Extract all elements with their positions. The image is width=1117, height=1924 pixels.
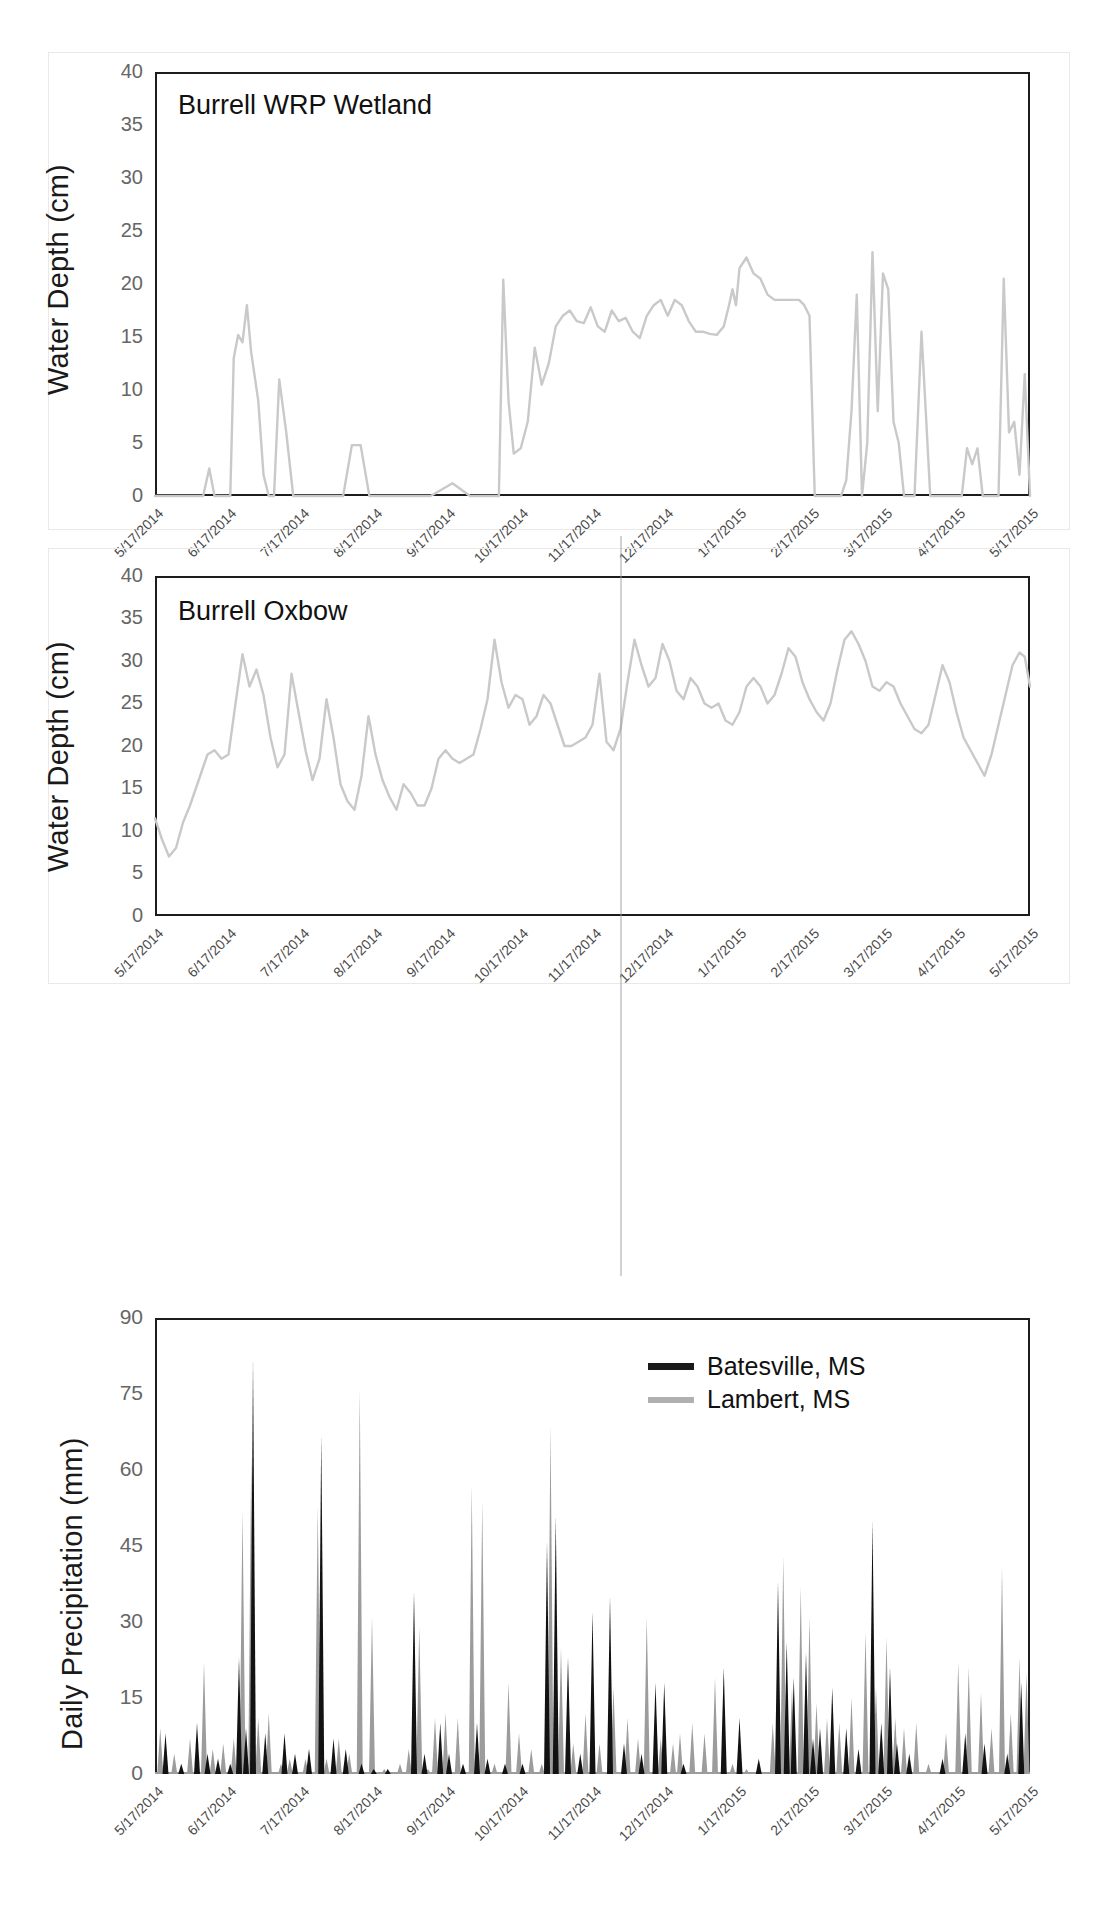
- precip-spike: [565, 1657, 571, 1774]
- precip-series-batesville: [163, 1359, 1025, 1774]
- precip-spike: [432, 1718, 438, 1774]
- precip-spike: [1024, 1673, 1030, 1774]
- precip-spike: [775, 1581, 781, 1774]
- precip-spike: [906, 1754, 912, 1774]
- y-tick-label: 0: [93, 1761, 143, 1785]
- precip-spike: [661, 1683, 667, 1774]
- precip-spike: [324, 1759, 330, 1774]
- precip-spike: [870, 1521, 876, 1774]
- precip-spike: [416, 1627, 422, 1774]
- precip-spike: [677, 1733, 683, 1774]
- precip-spike: [528, 1749, 534, 1774]
- precip-spike: [770, 1723, 776, 1774]
- y-tick-label: 30: [93, 1609, 143, 1633]
- precip-spike: [357, 1389, 363, 1774]
- y-tick-label: 20: [93, 272, 143, 295]
- precip-spike: [721, 1668, 727, 1774]
- precip-spike: [577, 1754, 583, 1774]
- precip-spike: [492, 1764, 498, 1774]
- precip-spike: [689, 1723, 695, 1774]
- precip-spike: [369, 1617, 375, 1774]
- precip-spike: [999, 1566, 1005, 1774]
- precip-spike: [474, 1723, 480, 1774]
- legend-swatch-batesville: [648, 1363, 694, 1370]
- precip-spike: [926, 1764, 932, 1774]
- precip-spike: [756, 1759, 762, 1774]
- precip-spike: [843, 1728, 849, 1774]
- precip-spike: [194, 1723, 200, 1774]
- y-tick-label: 5: [93, 861, 143, 884]
- precip-spike: [292, 1754, 298, 1774]
- precip-spike: [901, 1728, 907, 1774]
- panel3-y-axis-label: Daily Precipitation (mm): [56, 1437, 89, 1750]
- precip-spike: [583, 1713, 589, 1774]
- precip-spike: [553, 1516, 559, 1774]
- y-tick-label: 35: [93, 113, 143, 136]
- precip-spike: [220, 1744, 226, 1774]
- data-trace: [155, 252, 1030, 496]
- y-tick-label: 60: [93, 1457, 143, 1481]
- scan-artifact-streak: [620, 536, 622, 1276]
- precip-spike: [539, 1764, 545, 1774]
- y-tick-label: 30: [93, 166, 143, 189]
- precip-spike: [306, 1749, 312, 1774]
- series-canvas: [155, 576, 1030, 916]
- precip-spike: [590, 1612, 596, 1774]
- y-tick-label: 40: [93, 564, 143, 587]
- panel1-y-axis-label: Water Depth (cm): [42, 164, 75, 395]
- precip-spike: [178, 1764, 184, 1774]
- legend-label-batesville: Batesville, MS: [707, 1352, 865, 1381]
- precip-spike: [644, 1617, 650, 1774]
- precip-spike: [460, 1764, 466, 1774]
- precip-spike: [878, 1723, 884, 1774]
- precip-spike: [469, 1485, 475, 1774]
- precip-spike: [744, 1769, 750, 1774]
- precip-spike: [730, 1764, 736, 1774]
- series-canvas: [155, 72, 1030, 496]
- precip-spike: [282, 1733, 288, 1774]
- precip-spike: [516, 1733, 522, 1774]
- precip-spike: [849, 1698, 855, 1774]
- precip-spike: [397, 1764, 403, 1774]
- y-tick-label: 25: [93, 691, 143, 714]
- y-tick-label: 45: [93, 1533, 143, 1557]
- precip-spike: [955, 1663, 961, 1774]
- precip-spike: [437, 1723, 443, 1774]
- precip-spike: [702, 1733, 708, 1774]
- precip-spike: [171, 1754, 177, 1774]
- y-tick-label: 20: [93, 734, 143, 757]
- precip-spike: [653, 1683, 659, 1774]
- precip-spike: [187, 1739, 193, 1774]
- precip-spike: [989, 1728, 995, 1774]
- y-tick-label: 75: [93, 1381, 143, 1405]
- precip-spike: [597, 1744, 603, 1774]
- precip-spike: [157, 1728, 163, 1774]
- precip-spike: [411, 1592, 417, 1774]
- precip-spike: [255, 1718, 261, 1774]
- precip-spike: [422, 1754, 428, 1774]
- y-tick-label: 90: [93, 1305, 143, 1329]
- y-tick-label: 5: [93, 431, 143, 454]
- y-tick-label: 15: [93, 776, 143, 799]
- precip-spike: [712, 1678, 718, 1774]
- precip-spike: [318, 1435, 324, 1774]
- precip-spike: [455, 1718, 461, 1774]
- legend-entry-lambert: Lambert, MS: [648, 1383, 865, 1416]
- y-tick-label: 15: [93, 325, 143, 348]
- precip-spike: [558, 1647, 564, 1774]
- precip-spike: [163, 1733, 169, 1774]
- y-tick-label: 10: [93, 819, 143, 842]
- precipitation-legend: Batesville, MS Lambert, MS: [648, 1350, 865, 1416]
- precip-spike: [798, 1587, 804, 1774]
- y-tick-label: 40: [93, 60, 143, 83]
- precip-spike: [485, 1759, 491, 1774]
- precip-spike: [913, 1723, 919, 1774]
- y-tick-label: 0: [93, 904, 143, 927]
- precip-spike: [406, 1749, 412, 1774]
- precip-spike: [829, 1688, 835, 1774]
- precip-spike: [856, 1749, 862, 1774]
- precip-spike: [863, 1632, 869, 1774]
- precip-spike: [336, 1739, 342, 1774]
- precip-spike: [570, 1744, 576, 1774]
- precip-spike: [836, 1723, 842, 1774]
